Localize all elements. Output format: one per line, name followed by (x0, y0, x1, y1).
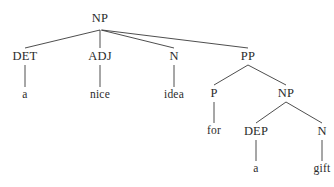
tree-node-n2: N (317, 125, 326, 138)
syntax-tree-diagram: NPDETADJNPPaniceideaPNPforDEPNagift (0, 0, 334, 187)
tree-edge-np-root-to-pp (102, 30, 248, 48)
tree-edge-pp-to-np-sub (248, 65, 286, 85)
tree-edge-np-sub-to-n2 (286, 102, 322, 123)
tree-node-np-sub: NP (278, 87, 294, 100)
tree-leaf-leaf-gift: gift (314, 163, 331, 175)
tree-leaf-leaf-a1: a (22, 89, 27, 101)
tree-edge-np-root-to-det (25, 30, 100, 48)
tree-edge-pp-to-p (214, 65, 248, 85)
tree-edge-np-root-to-n1 (101, 30, 174, 48)
tree-leaf-leaf-a2: a (253, 163, 258, 175)
tree-edge-np-sub-to-dep (256, 102, 286, 123)
tree-node-pp: PP (241, 50, 255, 63)
tree-leaf-leaf-for: for (207, 125, 221, 137)
tree-node-det: DET (13, 50, 38, 63)
tree-node-p: P (210, 87, 217, 100)
tree-leaf-leaf-idea: idea (164, 89, 184, 101)
tree-node-n1: N (169, 50, 178, 63)
tree-node-dep: DEP (244, 125, 268, 138)
tree-node-adj: ADJ (88, 50, 112, 63)
tree-leaf-leaf-nice: nice (90, 89, 110, 101)
tree-node-np-root: NP (92, 12, 108, 25)
